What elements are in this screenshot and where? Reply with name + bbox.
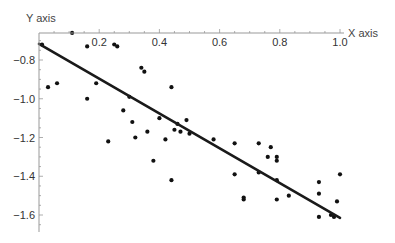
data-point xyxy=(317,215,321,219)
data-point xyxy=(233,141,237,145)
data-point xyxy=(106,139,110,143)
data-point xyxy=(145,130,149,134)
data-point xyxy=(115,44,119,48)
data-point xyxy=(317,180,321,184)
data-point xyxy=(85,44,89,48)
y-tick-label: −0.8 xyxy=(13,54,35,66)
x-tick-label: 1.0 xyxy=(332,36,347,48)
data-point xyxy=(169,178,173,182)
x-axis-label: X axis xyxy=(348,27,378,39)
data-point xyxy=(157,116,161,120)
data-point xyxy=(151,159,155,163)
data-point xyxy=(287,194,291,198)
y-tick-label: −1.4 xyxy=(13,170,35,182)
data-point xyxy=(133,135,137,139)
data-points xyxy=(40,31,342,219)
data-point xyxy=(178,130,182,134)
data-point xyxy=(338,172,342,176)
regression-line xyxy=(39,44,340,218)
data-point xyxy=(184,118,188,122)
data-point xyxy=(233,172,237,176)
data-point xyxy=(317,192,321,196)
data-point xyxy=(85,97,89,101)
data-point xyxy=(275,159,279,163)
data-point xyxy=(55,81,59,85)
data-point xyxy=(257,141,261,145)
data-point xyxy=(275,155,279,159)
data-point xyxy=(130,120,134,124)
x-axis-ticks: 0.20.40.60.81.0 xyxy=(54,29,348,48)
data-point xyxy=(242,197,246,201)
y-tick-label: −1.6 xyxy=(13,209,35,221)
data-point xyxy=(335,199,339,203)
data-point xyxy=(275,197,279,201)
y-tick-label: −1.2 xyxy=(13,132,35,144)
x-tick-label: 0.4 xyxy=(152,36,167,48)
data-point xyxy=(269,145,273,149)
x-tick-label: 0.6 xyxy=(212,36,227,48)
data-point xyxy=(139,66,143,70)
y-tick-label: −1.0 xyxy=(13,93,35,105)
y-axis-label: Y axis xyxy=(26,12,56,24)
x-tick-label: 0.8 xyxy=(272,36,287,48)
data-point xyxy=(163,137,167,141)
data-point xyxy=(211,137,215,141)
data-point xyxy=(142,70,146,74)
data-point xyxy=(169,85,173,89)
data-point xyxy=(266,155,270,159)
data-point xyxy=(121,108,125,112)
data-point xyxy=(46,85,50,89)
x-tick-label: 0.2 xyxy=(92,36,107,48)
data-point xyxy=(172,128,176,132)
data-point xyxy=(94,81,98,85)
scatter-chart: 0.20.40.60.81.0 −0.8−1.0−1.2−1.4−1.6 X a… xyxy=(0,0,395,243)
axes: 0.20.40.60.81.0 −0.8−1.0−1.2−1.4−1.6 X a… xyxy=(13,12,378,232)
